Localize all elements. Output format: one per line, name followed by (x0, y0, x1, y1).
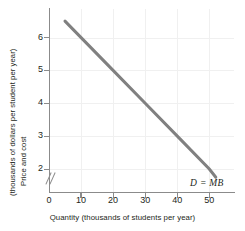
x-axis-label: Quantity (thousands of students per year… (0, 213, 245, 222)
demand-curve-line (65, 21, 216, 177)
demand-curve-layer (0, 0, 245, 231)
curve-label-d-mb: D = MB (190, 178, 224, 188)
chart-figure: Price and cost (thousands of dollars per… (0, 0, 245, 231)
